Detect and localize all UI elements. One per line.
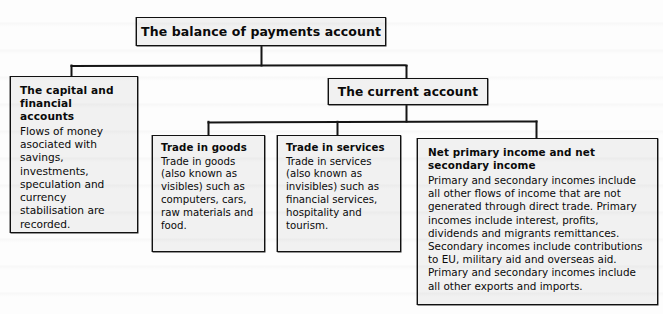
node-title: Net primary income and net secondary inc… (428, 146, 648, 172)
node-net-primary-and-secondary-income: Net primary income and net secondary inc… (417, 138, 658, 305)
node-title: Trade in services (286, 142, 393, 155)
node-capital-and-financial-accounts: The capital and financial accounts Flows… (10, 76, 138, 233)
node-body: Trade in services (also known as invisib… (286, 156, 393, 233)
node-balance-of-payments-account: The balance of payments account (136, 17, 386, 46)
node-body: Trade in goods (also known as visibles) … (161, 156, 257, 233)
balance-of-payments-diagram: The balance of payments account The capi… (0, 0, 663, 314)
edge-root-bus (72, 65, 407, 66)
edge-current-bus (209, 121, 537, 122)
node-title: The balance of payments account (141, 24, 381, 39)
node-title: The current account (338, 85, 479, 99)
node-title: Trade in goods (161, 142, 257, 155)
node-title: The capital and financial accounts (20, 84, 129, 124)
node-body: Primary and secondary incomes include al… (428, 174, 648, 293)
node-current-account: The current account (328, 78, 488, 105)
node-body: Flows of money asociated with savings, i… (20, 125, 129, 231)
node-trade-in-services: Trade in services Trade in services (als… (277, 135, 401, 252)
node-trade-in-goods: Trade in goods Trade in goods (also know… (152, 135, 265, 252)
